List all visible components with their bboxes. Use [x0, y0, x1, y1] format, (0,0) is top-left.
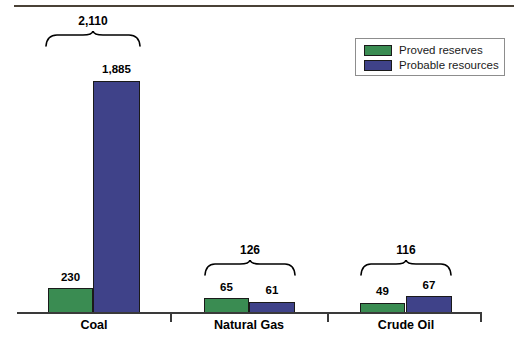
legend-item-proved-reserves[interactable]: Proved reserves: [364, 44, 483, 57]
legend-item-probable-resources[interactable]: Probable resources: [364, 59, 499, 72]
category-label-crude-oil: Crude Oil: [356, 318, 456, 332]
brace-shape-crude-oil: [360, 260, 452, 276]
x-axis-tick-2: [480, 314, 482, 322]
category-label-natural-gas: Natural Gas: [199, 318, 299, 332]
bar-value-crude-oil-proved: 49: [360, 285, 405, 297]
total-label-natural-gas: 126: [204, 243, 296, 257]
x-axis-line: [17, 312, 482, 314]
legend-label-proved-reserves: Proved reserves: [399, 45, 483, 56]
legend-label-probable-resources: Probable resources: [399, 60, 499, 71]
total-brace-coal: 2,110: [45, 14, 141, 46]
bar-value-natural-gas-proved: 65: [204, 281, 249, 293]
category-label-coal: Coal: [48, 318, 140, 332]
legend-swatch-proved-reserves: [364, 45, 392, 56]
bar-value-coal-probable: 1,885: [93, 63, 140, 75]
bar-value-coal-proved: 230: [48, 271, 93, 283]
total-label-crude-oil: 116: [360, 243, 452, 257]
total-brace-crude-oil: 116: [360, 243, 452, 275]
bar-coal-proved[interactable]: [48, 288, 93, 313]
bar-natural-gas-proved[interactable]: [204, 298, 249, 313]
bar-value-crude-oil-probable: 67: [406, 279, 452, 291]
total-brace-natural-gas: 126: [204, 243, 296, 275]
legend-swatch-probable-resources: [364, 60, 392, 71]
bar-value-natural-gas-probable: 61: [249, 284, 295, 296]
brace-shape-coal: [45, 31, 141, 47]
x-axis-tick-0: [170, 314, 172, 322]
total-label-coal: 2,110: [45, 14, 141, 28]
brace-shape-natural-gas: [204, 260, 296, 276]
chart-container: 2,110 1,885 230 Coal 126 65 61 Natural G…: [0, 0, 518, 346]
bar-coal-probable[interactable]: [93, 81, 140, 313]
x-axis-tick-1: [327, 314, 329, 322]
legend: Proved reserves Probable resources: [355, 38, 505, 76]
bar-crude-oil-probable[interactable]: [406, 296, 452, 313]
